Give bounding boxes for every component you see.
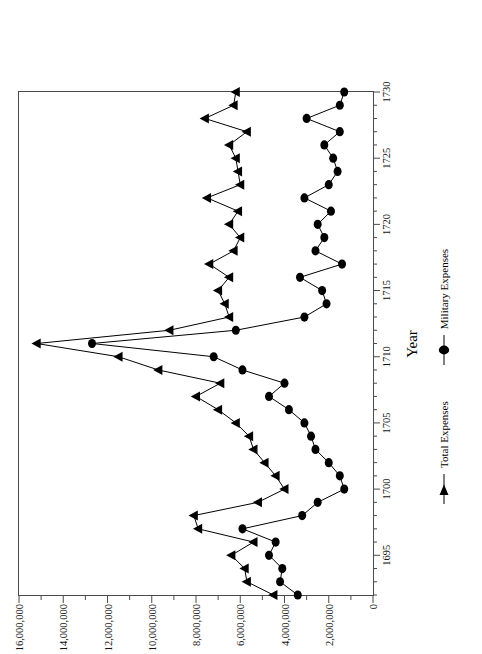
legend-entry-total-expenses: Total Expenses: [438, 401, 450, 504]
legend-entry-military-expenses: Military Expenses: [438, 249, 450, 365]
x-axis-tick-labels: 16951700170517101715172017251730: [376, 91, 402, 596]
legend-label-total-expenses: Total Expenses: [438, 401, 450, 468]
x-tick-label: 1700: [381, 479, 392, 500]
x-tick-label: 1725: [381, 148, 392, 169]
x-tick-label: 1705: [381, 412, 392, 433]
legend-label-military-expenses: Military Expenses: [438, 249, 450, 329]
x-tick-label: 1720: [381, 214, 392, 235]
circle-marker-icon: [438, 335, 450, 365]
x-axis-title: Year: [404, 330, 421, 358]
x-tick-label: 1695: [381, 545, 392, 566]
chart-legend: Total Expenses Military Expenses: [438, 249, 450, 504]
chart-figure: 02,000,0004,000,0006,000,0008,000,00010,…: [0, 0, 482, 654]
x-tick-label: 1730: [381, 82, 392, 103]
triangle-marker-icon: [438, 474, 450, 504]
x-tick-label: 1710: [381, 346, 392, 367]
x-tick-label: 1715: [381, 280, 392, 301]
axis-ticks-layer: [0, 0, 482, 654]
